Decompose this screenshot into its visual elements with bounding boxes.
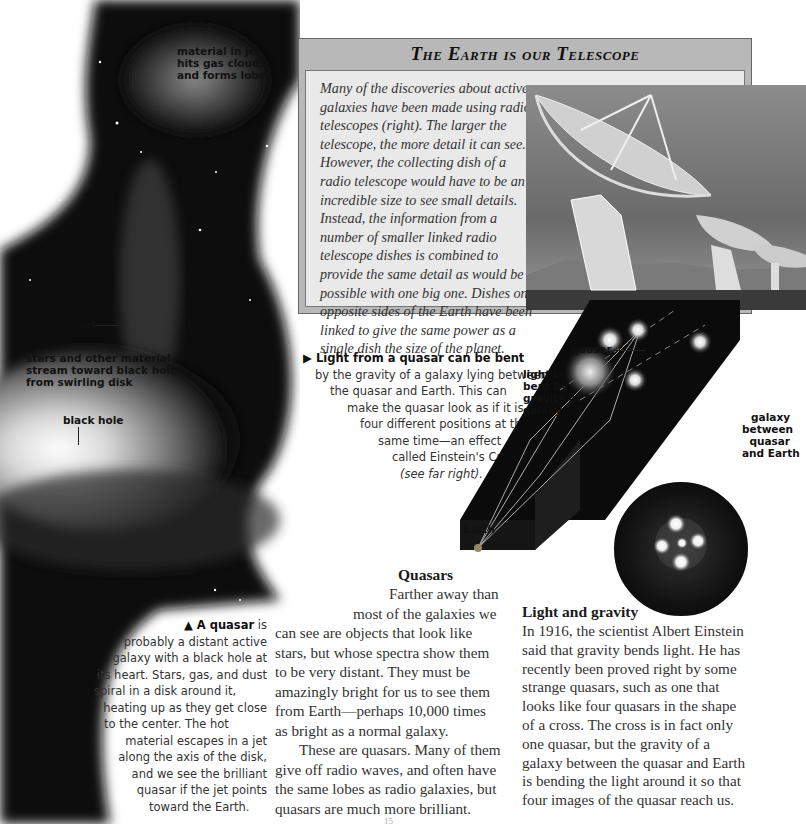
light-gravity-heading: Light and gravity [522, 603, 638, 621]
light-gravity-body: In 1916, the scientist Albert Einstein s… [522, 622, 802, 810]
page-number: 15 [384, 816, 393, 824]
jet-leader-line [95, 325, 122, 326]
quasar-label: quasar [571, 343, 612, 355]
lobes-label: material in jet hits gas clouds and form… [177, 45, 272, 81]
einstein-cross-image [612, 480, 750, 618]
light-bent-label: light is bent by gravity of galaxy [523, 368, 581, 416]
quasars-heading: Quasars [398, 566, 453, 584]
quasars-body: Farther away than most of the galaxies w… [275, 584, 525, 818]
quasar-leader-line [606, 350, 646, 351]
radio-telescope-photo [526, 85, 806, 310]
galaxy-between-label: galaxy between quasar and Earth [742, 411, 790, 459]
earth-label: Earth [463, 523, 495, 535]
black-hole-label: black hole [63, 414, 123, 426]
jet-label: jet [80, 318, 96, 330]
feature-title: The Earth is our Telescope [299, 39, 751, 69]
stream-label: stars and other material stream toward b… [26, 352, 177, 388]
black-hole-leader-line [78, 427, 79, 445]
quasar-caption: ▲ A quasar is probably a distant active … [92, 617, 267, 815]
